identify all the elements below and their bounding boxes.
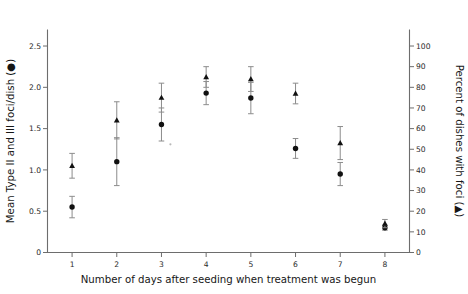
x-axis-tick-label: 8 bbox=[382, 260, 387, 269]
left-axis-tick-label: 1.5 bbox=[29, 124, 41, 133]
data-point-triangle[interactable] bbox=[293, 91, 299, 96]
data-point-triangle[interactable] bbox=[382, 221, 388, 226]
data-point-triangle[interactable] bbox=[159, 95, 165, 100]
x-axis-tick-label: 7 bbox=[338, 260, 343, 269]
right-axis-tick-label: 10 bbox=[416, 228, 426, 237]
data-point-triangle[interactable] bbox=[203, 74, 209, 79]
right-axis-tick-label: 70 bbox=[416, 104, 426, 113]
right-axis-tick-label: 100 bbox=[416, 42, 431, 51]
left-axis-tick-label: 0 bbox=[36, 248, 41, 257]
right-axis-tick-label: 40 bbox=[416, 166, 426, 175]
x-axis-tick-label: 3 bbox=[159, 260, 164, 269]
data-point-triangle[interactable] bbox=[69, 163, 75, 168]
right-axis-tick-label: 0 bbox=[416, 248, 421, 257]
left-axis-tick-label: 2.5 bbox=[29, 42, 41, 51]
x-axis-title: Number of days after seeding when treatm… bbox=[81, 274, 376, 285]
data-point-circle[interactable] bbox=[293, 146, 298, 151]
left-axis-tick-label: 1.0 bbox=[29, 166, 41, 175]
left-axis-title: Mean Type II and III foci/dish (●) bbox=[5, 59, 16, 223]
x-axis-tick-label: 4 bbox=[204, 260, 209, 269]
stray-speck bbox=[169, 143, 171, 145]
data-point-circle[interactable] bbox=[338, 171, 343, 176]
data-point-circle[interactable] bbox=[114, 159, 119, 164]
right-axis-tick-label: 60 bbox=[416, 124, 426, 133]
right-axis-tick-label: 50 bbox=[416, 145, 426, 154]
data-point-triangle[interactable] bbox=[248, 76, 254, 81]
x-axis-tick-label: 2 bbox=[114, 260, 119, 269]
chart-figure: 00.51.01.52.02.5Mean Type II and III foc… bbox=[0, 0, 468, 294]
x-axis-tick-label: 1 bbox=[70, 260, 75, 269]
data-point-circle[interactable] bbox=[159, 122, 164, 127]
right-axis-title: Percent of dishes with foci (▲) bbox=[454, 65, 465, 218]
data-point-triangle[interactable] bbox=[114, 117, 120, 122]
right-axis-tick-label: 80 bbox=[416, 83, 426, 92]
x-axis-tick-label: 5 bbox=[248, 260, 253, 269]
plot-frame bbox=[48, 30, 410, 253]
data-point-circle[interactable] bbox=[248, 95, 253, 100]
scatter-plot-canvas: 00.51.01.52.02.5Mean Type II and III foc… bbox=[0, 0, 468, 294]
right-axis-tick-label: 30 bbox=[416, 186, 426, 195]
data-point-circle[interactable] bbox=[203, 90, 208, 95]
x-axis-tick-label: 6 bbox=[293, 260, 298, 269]
data-point-triangle[interactable] bbox=[337, 140, 343, 145]
data-point-circle[interactable] bbox=[69, 204, 74, 209]
right-axis-tick-label: 20 bbox=[416, 207, 426, 216]
right-axis-tick-label: 90 bbox=[416, 62, 426, 71]
left-axis-tick-label: 2.0 bbox=[29, 83, 41, 92]
left-axis-tick-label: 0.5 bbox=[29, 207, 41, 216]
